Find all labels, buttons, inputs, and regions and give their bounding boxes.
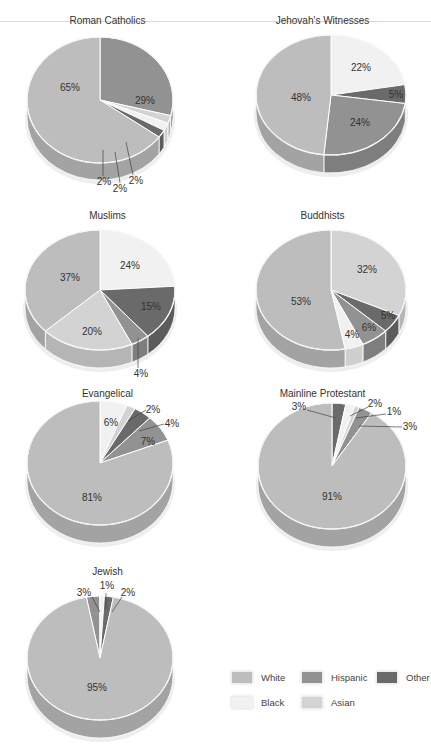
legend-swatch xyxy=(232,672,252,683)
chart-title: Jewish xyxy=(0,566,215,577)
pie-chart-muslims: 24%15%20%37%4%Muslims xyxy=(0,195,215,380)
slice-label: 6% xyxy=(104,417,119,428)
slice-label: 37% xyxy=(60,272,80,283)
pie-slice-white xyxy=(258,403,406,529)
pie-graphic: 3%1%2%95% xyxy=(0,560,215,745)
slice-label: 5% xyxy=(389,89,404,100)
slice-label: 53% xyxy=(291,296,311,307)
slice-label: 2% xyxy=(129,175,144,186)
slice-label: 22% xyxy=(351,62,371,73)
slice-label: 20% xyxy=(82,326,102,337)
slice-label: 2% xyxy=(113,183,128,194)
pie-chart-roman-catholics: 29%65%2%2%2%Roman Catholics xyxy=(0,0,215,185)
legend-item-asian: Asian xyxy=(302,697,355,708)
pie-chart-evangelical: 6%2%4%7%81%Evangelical xyxy=(0,380,215,565)
slice-label: 5% xyxy=(381,310,396,321)
slice-label: 32% xyxy=(357,264,377,275)
slice-label: 3% xyxy=(403,421,418,432)
slice-label: 3% xyxy=(292,401,307,412)
slice-label: 65% xyxy=(60,82,80,93)
slice-label: 15% xyxy=(141,301,161,312)
legend-item-hispanic: Hispanic xyxy=(302,672,367,683)
legend-swatch xyxy=(302,697,322,708)
slice-label: 2% xyxy=(146,404,161,415)
legend-swatch xyxy=(377,672,397,683)
legend-label: Black xyxy=(261,697,284,708)
slice-label: 1% xyxy=(387,406,402,417)
chart-title: Roman Catholics xyxy=(0,15,215,26)
pie-chart-jehovahs-witnesses: 22%5%24%48%Jehovah's Witnesses xyxy=(215,0,430,185)
legend-item-black: Black xyxy=(232,697,284,708)
legend: White Hispanic Other Black Asian xyxy=(232,672,431,722)
pie-graphic: 32%5%6%4%53% xyxy=(215,195,430,395)
slice-label: 4% xyxy=(165,418,180,429)
legend-label: Other xyxy=(406,672,430,683)
slice-label: 95% xyxy=(87,682,107,693)
chart-title: Muslims xyxy=(0,210,215,221)
legend-item-white: White xyxy=(232,672,285,683)
slice-label: 48% xyxy=(291,92,311,103)
pie-chart-jewish: 3%1%2%95%Jewish xyxy=(0,560,215,745)
legend-swatch xyxy=(302,672,322,683)
slice-label: 1% xyxy=(100,580,115,591)
pie-graphic: 22%5%24%48% xyxy=(215,0,430,200)
legend-label: Hispanic xyxy=(331,672,367,683)
pie-chart-mainline-protestant: 3%2%1%3%91%Mainline Protestant xyxy=(215,380,430,565)
legend-swatch xyxy=(232,697,252,708)
chart-title: Jehovah's Witnesses xyxy=(215,15,430,26)
slice-label: 6% xyxy=(362,322,377,333)
slice-label: 91% xyxy=(322,491,342,502)
slice-label: 24% xyxy=(120,260,140,271)
slice-label: 24% xyxy=(350,117,370,128)
chart-title: Buddhists xyxy=(215,210,430,221)
slice-label: 3% xyxy=(77,587,92,598)
pie-chart-buddhists: 32%5%6%4%53%Buddhists xyxy=(215,195,430,380)
pie-graphic: 6%2%4%7%81% xyxy=(0,380,215,580)
slice-label: 4% xyxy=(134,368,149,379)
slice-label: 2% xyxy=(121,587,136,598)
slice-label: 2% xyxy=(97,176,112,187)
legend-label: White xyxy=(261,672,285,683)
slice-label: 7% xyxy=(141,436,156,447)
chart-title: Evangelical xyxy=(0,388,215,399)
slice-label: 2% xyxy=(368,398,383,409)
slice-label: 81% xyxy=(82,492,102,503)
slice-label: 4% xyxy=(345,329,360,340)
pie-graphic: 24%15%20%37%4% xyxy=(0,195,215,395)
chart-title: Mainline Protestant xyxy=(215,388,430,399)
legend-item-other: Other xyxy=(377,672,430,683)
legend-label: Asian xyxy=(331,697,355,708)
slice-label: 29% xyxy=(135,95,155,106)
pie-graphic: 29%65%2%2%2% xyxy=(0,0,215,200)
pie-graphic: 3%2%1%3%91% xyxy=(215,380,430,580)
